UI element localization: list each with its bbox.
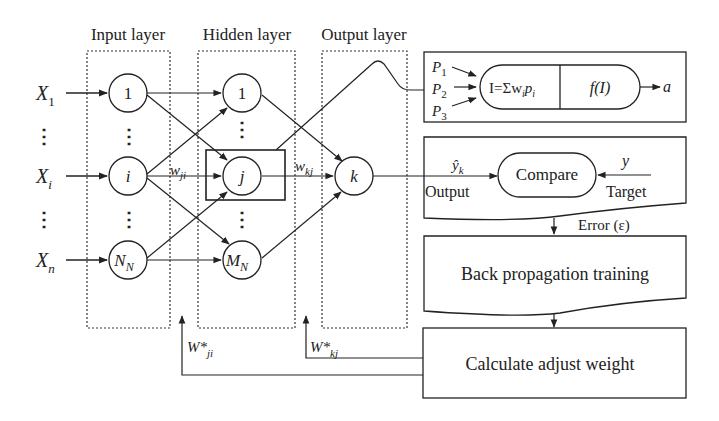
- hidden-node-j: j: [223, 157, 261, 195]
- feedback-wji: [182, 316, 423, 375]
- svg-text:P1: P1: [431, 59, 447, 78]
- neuron-detail-box: P1 P2 P3 I=Σwipi f(I) a: [424, 52, 686, 122]
- output-layer-label: Output layer: [321, 25, 407, 44]
- svg-text:P3: P3: [431, 103, 447, 122]
- svg-text:Calculate adjust weight: Calculate adjust weight: [466, 354, 635, 374]
- ellipsis-input-layer-1: ⋮: [119, 125, 139, 147]
- activation-function: f(I): [590, 79, 610, 97]
- ellipsis-input-layer-2: ⋮: [119, 208, 139, 230]
- backprop-box: Back propagation training: [424, 236, 686, 315]
- svg-text:ŷk: ŷk: [450, 157, 465, 176]
- input-hidden-connections: [147, 93, 229, 260]
- hidden-node-M: MN: [223, 241, 261, 279]
- backprop-diagram: Input layer Hidden layer Output layer X1…: [0, 0, 719, 421]
- weight-wkj: wkj: [295, 158, 313, 177]
- adjust-weight-box: Calculate adjust weight: [423, 328, 686, 398]
- target-label: Target: [606, 183, 647, 201]
- input-node-i: i: [109, 157, 147, 195]
- svg-text:Back propagation training: Back propagation training: [461, 264, 649, 284]
- hidden-node-1: 1: [223, 74, 261, 112]
- svg-text:j: j: [238, 167, 245, 186]
- neuron-output-a: a: [663, 78, 671, 95]
- svg-text:1: 1: [238, 84, 247, 103]
- weight-update-wkj: W*kj: [310, 339, 338, 359]
- ellipsis-inputs-2: ⋮: [34, 208, 54, 230]
- output-label: Output: [425, 183, 470, 201]
- ellipsis-hidden-layer-1: ⋮: [232, 118, 252, 140]
- ellipsis-inputs-1: ⋮: [34, 125, 54, 147]
- weight-update-wji: W*ji: [187, 339, 213, 359]
- compare-box: Compare ŷk Output y Target: [424, 137, 686, 220]
- svg-text:i: i: [126, 167, 131, 186]
- hidden-output-connections: [262, 95, 342, 258]
- input-layer-label: Input layer: [91, 25, 165, 44]
- summation-formula: I=Σwipi: [489, 80, 535, 99]
- svg-text:Compare: Compare: [516, 165, 578, 184]
- weight-wji: wji: [170, 162, 186, 181]
- input-xi: Xi: [35, 165, 52, 192]
- output-node-k: k: [335, 157, 373, 195]
- svg-text:X1: X1: [35, 82, 55, 109]
- input-node-N: NN: [109, 241, 147, 279]
- svg-text:1: 1: [124, 84, 133, 103]
- ellipsis-hidden-layer-2: ⋮: [232, 208, 252, 230]
- svg-text:P2: P2: [431, 81, 447, 100]
- input-x1: X1: [35, 82, 55, 109]
- input-xn: Xn: [35, 249, 55, 276]
- error-label: Error (ε): [578, 217, 630, 234]
- hidden-layer-label: Hidden layer: [203, 25, 292, 44]
- neuron-detail-link: [276, 61, 424, 150]
- svg-text:Xn: Xn: [35, 249, 55, 276]
- svg-text:k: k: [350, 167, 358, 186]
- input-node-1: 1: [109, 74, 147, 112]
- svg-text:y: y: [620, 152, 630, 170]
- svg-text:Xi: Xi: [35, 165, 52, 192]
